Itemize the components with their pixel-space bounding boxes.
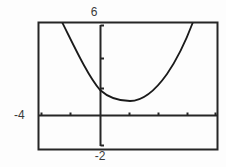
parabola-curve <box>62 22 193 101</box>
x-min-label: -4 <box>14 109 25 121</box>
y-max-label: 6 <box>91 6 98 18</box>
graph-screenshot: 6 -4 -2 <box>0 0 226 167</box>
graph-svg <box>0 0 226 167</box>
plot-frame <box>39 23 218 150</box>
graph-plot-area <box>0 0 226 167</box>
y-min-label: -2 <box>95 150 106 162</box>
